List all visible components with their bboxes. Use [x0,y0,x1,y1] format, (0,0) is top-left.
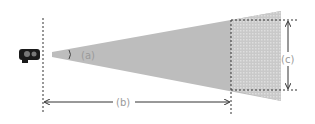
height-label: (c) [281,54,294,65]
view-cone-far-region [231,11,281,101]
camera-icon [19,49,40,63]
field-of-view-diagram: (a) (b) (c) [0,0,315,124]
distance-label: (b) [116,97,130,108]
angle-label: (a) [81,50,95,61]
